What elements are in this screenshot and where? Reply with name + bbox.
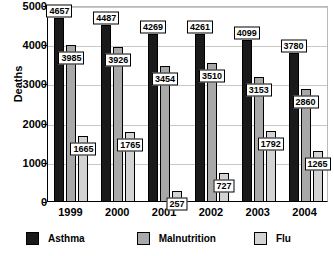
bar-value-label: 1792: [258, 137, 284, 150]
x-axis-tick-label: 2000: [105, 206, 129, 218]
bar[interactable]: 3454: [160, 66, 170, 201]
bar[interactable]: 4657: [54, 18, 64, 201]
y-axis-tick-label: 4000: [7, 39, 47, 51]
bar[interactable]: 1665: [78, 136, 88, 201]
bar-group: 409931531792: [235, 7, 282, 201]
bar[interactable]: 1265: [313, 151, 323, 201]
bar-value-label: 3454: [152, 72, 178, 85]
plot-inner: 4657398516654487392617654269345425742613…: [48, 7, 327, 201]
bar-value-label: 1265: [305, 158, 331, 171]
bar[interactable]: 727: [219, 173, 229, 201]
bar-value-label: 3153: [246, 84, 272, 97]
legend-item-asthma[interactable]: Asthma: [26, 232, 85, 245]
bar[interactable]: 3926: [113, 47, 123, 201]
bar[interactable]: 4099: [242, 40, 252, 201]
bar[interactable]: 1792: [266, 131, 276, 201]
chart-legend: AsthmaMalnutritionFlu: [26, 232, 326, 245]
x-axis-tick-label: 2002: [199, 206, 223, 218]
bar-value-label: 257: [167, 197, 188, 210]
bar-value-label: 4487: [93, 12, 119, 25]
bar-value-label: 3985: [58, 51, 84, 64]
legend-swatch-icon: [137, 232, 150, 245]
bar[interactable]: 4261: [195, 34, 205, 201]
y-axis-tick-label: 3000: [7, 78, 47, 90]
y-axis-tick-label: 0: [7, 196, 47, 208]
bar-group: 42613510727: [189, 7, 236, 201]
legend-label: Flu: [276, 233, 291, 244]
bar-value-label: 1665: [70, 142, 96, 155]
y-axis-tick-label: 1000: [7, 157, 47, 169]
bar-value-label: 1765: [117, 138, 143, 151]
bar-value-label: 4269: [140, 20, 166, 33]
plot-area: 4657398516654487392617654269345425742613…: [47, 6, 328, 202]
bar-value-label: 3780: [281, 39, 307, 52]
bar[interactable]: 2860: [301, 89, 311, 201]
legend-item-malnutrition[interactable]: Malnutrition: [137, 232, 216, 245]
legend-swatch-icon: [254, 232, 267, 245]
x-axis-tick-label: 2003: [246, 206, 270, 218]
bar-value-label: 3510: [199, 70, 225, 83]
bar-value-label: 4261: [187, 20, 213, 33]
y-axis-tick-label: 2000: [7, 118, 47, 130]
legend-label: Asthma: [48, 233, 85, 244]
legend-item-flu[interactable]: Flu: [254, 232, 291, 245]
x-axis-tick-label: 2004: [292, 206, 316, 218]
legend-label: Malnutrition: [159, 233, 216, 244]
bar[interactable]: 257: [172, 191, 182, 201]
bar-value-label: 2860: [293, 95, 319, 108]
legend-swatch-icon: [26, 232, 39, 245]
bar-group: 448739261765: [95, 7, 142, 201]
y-axis-tick-mark: [43, 202, 47, 203]
bar-value-label: 3926: [105, 54, 131, 67]
bar-value-label: 727: [213, 179, 234, 192]
bar-group: 378028601265: [282, 7, 329, 201]
x-axis-tick-label: 1999: [58, 206, 82, 218]
bar-group: 465739851665: [48, 7, 95, 201]
bar[interactable]: 3985: [66, 45, 76, 201]
bar-chart: Deaths 010002000300040005000 46573985166…: [0, 0, 334, 256]
bar[interactable]: 3780: [289, 53, 299, 201]
bar[interactable]: 4487: [101, 25, 111, 201]
bar[interactable]: 4269: [148, 34, 158, 201]
bar[interactable]: 1765: [125, 132, 135, 201]
bar-group: 42693454257: [142, 7, 189, 201]
bar-value-label: 4657: [46, 5, 72, 18]
y-axis-tick-label: 5000: [7, 0, 47, 12]
bar-value-label: 4099: [234, 27, 260, 40]
